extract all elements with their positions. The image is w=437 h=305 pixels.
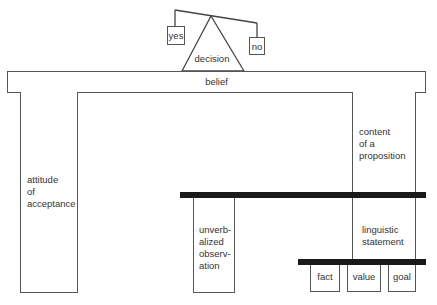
unverbalized-line-3: observ-	[199, 248, 231, 260]
fact-label: fact	[311, 271, 339, 283]
linguistic-column: linguistic statement	[352, 198, 416, 260]
content-label: content of a proposition	[359, 126, 405, 162]
value-box: value	[347, 265, 381, 292]
no-option-box: no	[249, 37, 265, 55]
attitude-label: attitude of acceptance	[27, 174, 76, 210]
unverbalized-label: unverb- alized observ- ation	[199, 224, 231, 272]
fact-box: fact	[310, 265, 340, 292]
unverbalized-line-1: unverb-	[199, 224, 231, 236]
content-column: content of a proposition	[352, 92, 416, 193]
linguistic-line-1: linguistic	[362, 224, 404, 236]
yes-label: yes	[168, 30, 184, 42]
no-label: no	[250, 41, 264, 53]
value-label: value	[348, 271, 380, 283]
belief-label: belief	[8, 76, 425, 88]
content-line-3: proposition	[359, 150, 405, 162]
linguistic-line-2: statement	[362, 236, 404, 248]
attitude-line-2: of	[27, 186, 76, 198]
attitude-line-3: acceptance	[27, 198, 76, 210]
unverbalized-column: unverb- alized observ- ation	[193, 198, 235, 293]
balance-beam	[175, 10, 257, 23]
unverbalized-line-2: alized	[199, 236, 231, 248]
goal-box: goal	[388, 265, 416, 292]
goal-label: goal	[389, 271, 415, 283]
attitude-column: attitude of acceptance	[20, 92, 78, 293]
decision-label: decision	[192, 53, 232, 65]
unverbalized-line-4: ation	[199, 260, 231, 272]
content-line-1: content	[359, 126, 405, 138]
attitude-line-1: attitude	[27, 174, 76, 186]
content-line-2: of a	[359, 138, 405, 150]
belief-bar: belief	[7, 71, 426, 93]
linguistic-label: linguistic statement	[362, 224, 404, 248]
yes-option-box: yes	[167, 26, 185, 45]
